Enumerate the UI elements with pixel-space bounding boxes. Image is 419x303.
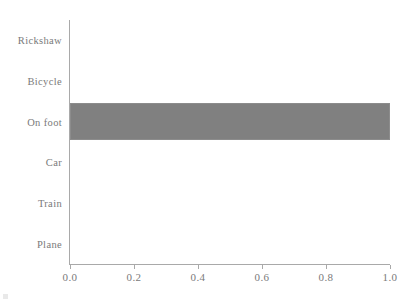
x-axis-tick-label-2: 0.4 bbox=[168, 271, 228, 283]
y-axis-tick-label-car: Car bbox=[0, 157, 62, 168]
bar-row bbox=[70, 144, 390, 181]
bar-row bbox=[70, 225, 390, 262]
x-axis-tick-label-3: 0.6 bbox=[232, 271, 292, 283]
x-axis-tick-label-1: 0.2 bbox=[104, 271, 164, 283]
x-axis-tick-label-0: 0.0 bbox=[40, 271, 100, 283]
x-axis-tick-label-4: 0.8 bbox=[296, 271, 356, 283]
bar-row bbox=[70, 185, 390, 222]
y-axis-tick-label-plane: Plane bbox=[0, 238, 62, 249]
x-axis-tick-mark bbox=[262, 265, 263, 269]
x-axis-spine bbox=[69, 264, 390, 265]
y-axis-tick-label-rickshaw: Rickshaw bbox=[0, 35, 62, 46]
y-axis-tick-label-train: Train bbox=[0, 198, 62, 209]
bar-on-foot[interactable] bbox=[70, 103, 390, 140]
y-axis-tick-label-bicycle: Bicycle bbox=[0, 76, 62, 87]
y-axis-tick-label-on-foot: On foot bbox=[0, 116, 62, 127]
chart-figure: RickshawBicycleOn footCarTrainPlane 0.00… bbox=[0, 0, 419, 303]
bar-row bbox=[70, 63, 390, 100]
corner-artifact bbox=[3, 294, 8, 299]
x-axis-tick-mark bbox=[198, 265, 199, 269]
x-axis-tick-mark bbox=[134, 265, 135, 269]
x-axis-tick-mark bbox=[70, 265, 71, 269]
x-axis-tick-label-5: 1.0 bbox=[360, 271, 419, 283]
x-axis-tick-mark bbox=[326, 265, 327, 269]
bar-row bbox=[70, 22, 390, 59]
x-axis-tick-mark bbox=[390, 265, 391, 269]
bar-row bbox=[70, 103, 390, 140]
